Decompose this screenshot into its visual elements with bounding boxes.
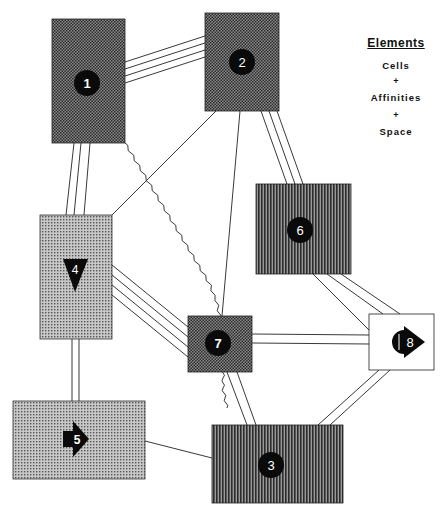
- legend-item-space: Space: [350, 126, 442, 137]
- cell-2[interactable]: 2: [205, 13, 279, 111]
- cell-8[interactable]: 8: [369, 314, 434, 370]
- legend-item-affinities: Affinities: [350, 92, 442, 103]
- cell-7[interactable]: 7: [188, 316, 252, 372]
- cell-1-label: 1: [83, 76, 90, 91]
- affinity-4-5: [72, 339, 79, 401]
- affinity-8-3: [318, 370, 390, 425]
- affinity-5-3: [145, 441, 212, 458]
- affinity-1-4: [66, 143, 90, 215]
- affinity-1-2: [125, 36, 205, 83]
- cell-1[interactable]: 1: [52, 19, 125, 143]
- legend-item-cells: Cells: [350, 60, 442, 71]
- affinity-2-6: [261, 111, 303, 184]
- cell-2-label: 2: [238, 55, 245, 70]
- cell-6-label: 6: [296, 223, 303, 238]
- cell-8-label: 8: [406, 335, 413, 350]
- affinity-7-3: [227, 372, 256, 425]
- cell-3-label: 3: [267, 458, 274, 473]
- cell-7-label: 7: [214, 336, 221, 351]
- legend-title: Elements: [350, 36, 442, 56]
- cell-5-label: 5: [74, 433, 81, 447]
- cell-3[interactable]: 3: [212, 425, 343, 503]
- cell-4[interactable]: 4: [40, 215, 112, 339]
- affinity-7-8: [252, 334, 369, 344]
- cell-6[interactable]: 6: [256, 184, 351, 274]
- affinity-2-7: [222, 111, 240, 316]
- legend-plus-2: +: [350, 110, 442, 120]
- affinity-4-7: [112, 265, 188, 357]
- legend: Elements Cells + Affinities + Space: [350, 36, 442, 137]
- cell-4-label: 4: [72, 263, 79, 277]
- cell-5[interactable]: 5: [13, 401, 145, 479]
- legend-plus-1: +: [350, 76, 442, 86]
- affinity-2-4: [112, 111, 216, 215]
